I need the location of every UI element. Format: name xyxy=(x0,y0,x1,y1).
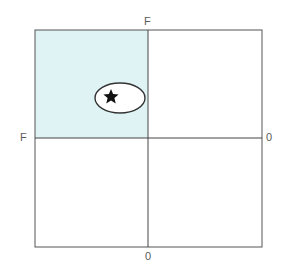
ellipse-marker xyxy=(95,83,145,113)
quadrant-diagram: F F 0 0 xyxy=(0,0,285,270)
left-axis-label: F xyxy=(20,132,27,143)
right-axis-label: 0 xyxy=(266,132,272,143)
bottom-axis-label: 0 xyxy=(145,251,151,262)
top-axis-label: F xyxy=(144,16,151,27)
